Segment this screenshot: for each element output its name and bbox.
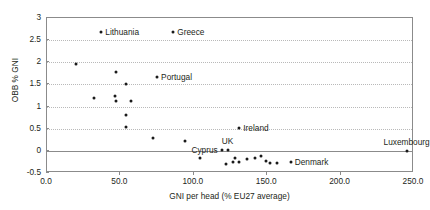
x-tick-label: 200.0 bbox=[329, 177, 350, 185]
gridline-y bbox=[47, 62, 412, 63]
data-point-label: Denmark bbox=[295, 158, 329, 166]
data-point-label: Portugal bbox=[161, 73, 192, 81]
y-tick-label: -0.5 bbox=[27, 168, 41, 176]
data-point bbox=[220, 149, 223, 152]
data-point bbox=[75, 63, 78, 66]
y-tick-mark bbox=[46, 61, 49, 62]
x-tick-label: 50.0 bbox=[111, 177, 127, 185]
x-tick-mark bbox=[119, 172, 120, 175]
data-point bbox=[233, 157, 236, 160]
y-tick-mark bbox=[46, 150, 49, 151]
data-point bbox=[254, 157, 257, 160]
x-tick-label: 0.0 bbox=[40, 177, 52, 185]
zero-axis-line bbox=[47, 151, 412, 152]
y-tick-label: 1 bbox=[36, 101, 41, 109]
x-tick-label: 100.0 bbox=[182, 177, 203, 185]
data-point bbox=[114, 71, 117, 74]
data-point bbox=[125, 83, 128, 86]
gridline-y bbox=[47, 40, 412, 41]
data-point bbox=[232, 160, 235, 163]
data-point bbox=[151, 137, 154, 140]
y-tick-label: 2.5 bbox=[29, 35, 41, 43]
data-point-label: Lithuania bbox=[105, 28, 139, 36]
data-point bbox=[238, 127, 241, 130]
data-point bbox=[260, 155, 263, 158]
data-point bbox=[238, 161, 241, 164]
data-point bbox=[172, 31, 175, 34]
y-tick-mark bbox=[46, 83, 49, 84]
data-point bbox=[289, 160, 292, 163]
y-tick-mark bbox=[46, 172, 49, 173]
data-point-label: Luxembourg bbox=[384, 138, 430, 146]
data-point bbox=[245, 158, 248, 161]
data-point bbox=[129, 99, 132, 102]
x-axis-title: GNI per head (% EU27 average) bbox=[46, 192, 413, 200]
data-point bbox=[100, 31, 103, 34]
data-point bbox=[264, 159, 267, 162]
data-point bbox=[125, 113, 128, 116]
y-tick-mark bbox=[46, 39, 49, 40]
y-axis-tick-labels: -0.500.511.522.53 bbox=[0, 17, 41, 172]
data-point bbox=[156, 76, 159, 79]
y-tick-label: 3 bbox=[36, 13, 41, 21]
data-point bbox=[269, 161, 272, 164]
gridline-y bbox=[47, 84, 412, 85]
data-point-label: Greece bbox=[177, 28, 204, 36]
x-tick-mark bbox=[340, 172, 341, 175]
y-tick-label: 0.5 bbox=[29, 124, 41, 132]
data-point-label: UK bbox=[222, 137, 234, 145]
data-point bbox=[276, 162, 279, 165]
x-axis-tick-labels: 0.050.0100.0150.0200.0250.0 bbox=[46, 177, 413, 189]
x-tick-mark bbox=[266, 172, 267, 175]
data-point-label: Cyprus bbox=[191, 146, 217, 154]
y-tick-label: 0 bbox=[36, 146, 41, 154]
y-tick-label: 2 bbox=[36, 57, 41, 65]
y-tick-label: 1.5 bbox=[29, 79, 41, 87]
data-point-label: Ireland bbox=[243, 124, 268, 132]
y-tick-mark bbox=[46, 128, 49, 129]
data-point bbox=[226, 148, 229, 151]
x-tick-label: 250.0 bbox=[403, 177, 424, 185]
gridline-y bbox=[47, 129, 412, 130]
x-tick-mark bbox=[193, 172, 194, 175]
data-point bbox=[183, 139, 186, 142]
y-tick-mark bbox=[46, 106, 49, 107]
data-point bbox=[92, 97, 95, 100]
data-point bbox=[225, 162, 228, 165]
data-point bbox=[198, 156, 201, 159]
data-point bbox=[114, 100, 117, 103]
data-point bbox=[113, 94, 116, 97]
x-tick-label: 150.0 bbox=[256, 177, 277, 185]
plot-area: LithuaniaGreecePortugalCyprusIrelandUKDe… bbox=[46, 17, 413, 172]
data-point bbox=[405, 149, 408, 152]
data-point bbox=[125, 126, 128, 129]
gridline-y bbox=[47, 107, 412, 108]
